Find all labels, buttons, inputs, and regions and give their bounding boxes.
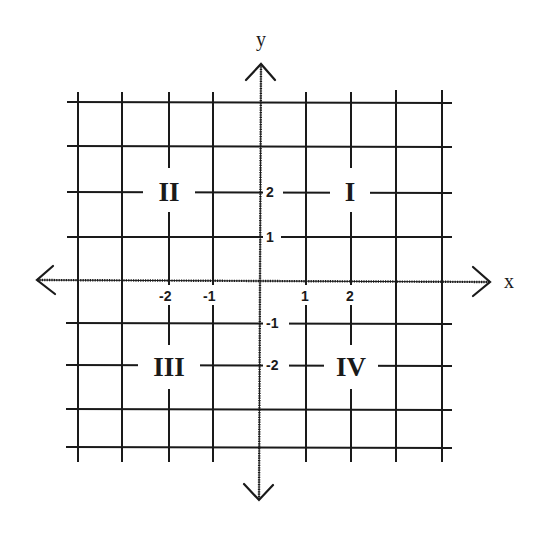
y-tick-label: -2: [266, 357, 279, 373]
y-tick-label: -1: [266, 315, 279, 331]
quadrant-3-label: III: [153, 352, 185, 382]
y-axis-label: y: [256, 28, 266, 51]
x-tick-label: 1: [301, 288, 309, 304]
coordinate-plane: y x -2 -1 1 2 2 1 -1 -2 II I III IV: [0, 0, 548, 533]
quadrant-2-label: II: [158, 177, 179, 207]
x-axis: [37, 266, 490, 296]
x-tick-label: -1: [203, 288, 216, 304]
x-tick-label: 2: [346, 288, 354, 304]
y-tick-label: 2: [266, 184, 274, 200]
x-tick-label: -2: [159, 288, 172, 304]
quadrant-4-label: IV: [336, 352, 367, 382]
quadrant-1-label: I: [345, 177, 356, 207]
y-tick-label: 1: [266, 229, 274, 245]
x-axis-label: x: [504, 270, 514, 292]
